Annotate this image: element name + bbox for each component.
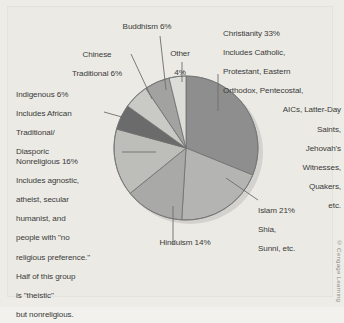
label-christianity-line9: Quakers, [223,182,341,192]
label-hinduism: Hinduism 14% [140,238,230,248]
label-nonreligious-line6: religious preference." [16,253,122,263]
label-christianity-line1: Christianity 33% [223,29,341,39]
label-christianity-line5: AICs, Latter-Day [223,105,341,115]
label-indigenous-line3: Traditional/ [16,128,116,138]
label-nonreligious-line1: Nonreligious 16% [16,157,122,167]
label-chinese-line1: Chinese [53,50,141,60]
label-islam-line3: Sunni, etc. [258,244,342,254]
label-nonreligious-line8: is "theistic" [16,291,122,301]
label-islam: Islam 21% Shia, Sunni, etc. [258,196,342,263]
label-nonreligious-line9: but nonreligious. [16,310,122,320]
label-christianity: Christianity 33% Includes Catholic, Prot… [223,19,341,220]
copyright-credit: © Cengage Learning [336,239,343,302]
label-christianity-line7: Jehovah's [223,144,341,154]
label-nonreligious-line7: Half of this group [16,272,122,282]
label-buddhism: Buddhism 6% [108,22,186,32]
label-indigenous-line1: Indigenous 6% [16,90,116,100]
label-indigenous-line2: Includes African [16,109,116,119]
label-islam-line2: Shia, [258,225,342,235]
label-other: Other 4% [160,39,200,87]
label-christianity-line6: Saints, [223,125,341,135]
label-chinese-line2: Traditional 6% [53,69,141,79]
label-christianity-line4: Orthodox, Pentecostal, [223,86,341,96]
label-christianity-line8: Witnesses, [223,163,341,173]
label-nonreligious-line5: people with "no [16,233,122,243]
label-other-line2: 4% [160,68,200,78]
label-nonreligious-line2: Includes agnostic, [16,176,122,186]
label-nonreligious-line4: humanist, and [16,214,122,224]
label-islam-line1: Islam 21% [258,206,342,216]
label-nonreligious-line3: atheist, secular [16,195,122,205]
label-other-line1: Other [160,49,200,59]
label-nonreligious: Nonreligious 16% Includes agnostic, athe… [16,147,122,323]
label-christianity-line2: Includes Catholic, [223,48,341,58]
label-christianity-line3: Protestant, Eastern [223,67,341,77]
